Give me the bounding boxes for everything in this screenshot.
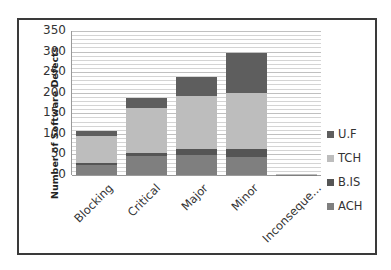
bar-blocking [76,131,117,175]
bar-segment-tch [126,108,167,153]
legend-label: B.IS [338,175,360,189]
legend-swatch-icon [327,203,334,210]
gridline [72,60,321,61]
y-tick-label: 200 [36,85,66,99]
y-tick-label: 300 [36,44,66,58]
bar-segment-ach [176,155,217,175]
bar-segment-uf [126,98,167,108]
bar-critical [126,98,167,175]
gridline [72,64,321,65]
bar-inconseque [276,174,317,175]
y-tick-label: 250 [36,64,66,78]
legend-item-uf: U.F [327,122,362,146]
legend: U.FTCHB.ISACH [327,122,362,218]
legend-label: U.F [338,127,357,141]
bar-segment-ach [126,156,167,175]
gridline [72,31,321,32]
y-tick-label: 350 [36,23,66,37]
y-tick-label: 100 [36,126,66,140]
legend-label: ACH [338,199,362,213]
plot-area [71,31,321,175]
legend-item-bis: B.IS [327,170,362,194]
bar-segment-uf [226,53,267,93]
bar-minor [226,53,267,175]
bar-segment-bis [226,149,267,156]
bar-segment-tch [76,136,117,163]
gridline [72,72,321,73]
legend-swatch-icon [327,131,334,138]
y-tick-label: 0 [36,167,66,181]
bar-segment-tch [226,93,267,149]
bar-segment-tch [176,96,217,149]
gridline [72,39,321,40]
gridline [72,52,321,53]
legend-label: TCH [338,151,361,165]
y-tick-label: 50 [36,146,66,160]
bar-segment-uf [176,77,217,96]
legend-item-ach: ACH [327,194,362,218]
gridline [72,35,321,36]
gridline [72,56,321,57]
legend-swatch-icon [327,179,334,186]
legend-item-tch: TCH [327,146,362,170]
y-tick-label: 150 [36,105,66,119]
bar-segment-ach [76,165,117,175]
gridline [72,68,321,69]
bar-major [176,77,217,175]
bar-segment-ach [226,157,267,176]
gridline [72,43,321,44]
legend-swatch-icon [327,155,334,162]
gridline [72,47,321,48]
x-axis-line [72,175,321,176]
